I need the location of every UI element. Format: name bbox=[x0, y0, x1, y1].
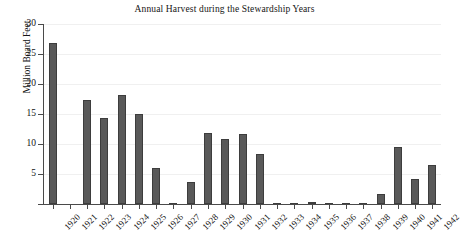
bar bbox=[411, 179, 419, 204]
x-tick-mark bbox=[225, 205, 226, 209]
bar bbox=[428, 165, 436, 204]
bar bbox=[152, 168, 160, 204]
plot-area bbox=[44, 24, 441, 204]
x-tick-mark bbox=[53, 205, 54, 209]
x-tick-label: 1924 bbox=[131, 212, 151, 232]
x-tick-label: 1939 bbox=[390, 212, 410, 232]
gridline bbox=[44, 24, 441, 25]
x-tick-label: 1931 bbox=[252, 212, 272, 232]
y-tick-mark bbox=[38, 84, 43, 85]
x-tick-mark bbox=[277, 205, 278, 209]
x-tick-label: 1920 bbox=[62, 212, 82, 232]
x-tick-label: 1933 bbox=[286, 212, 306, 232]
bar bbox=[394, 147, 402, 204]
x-tick-label: 1921 bbox=[79, 212, 99, 232]
y-tick-label: 5 bbox=[6, 169, 36, 179]
y-axis-line bbox=[43, 24, 44, 205]
bar bbox=[239, 134, 247, 204]
bar bbox=[187, 182, 195, 204]
y-tick-label: 10 bbox=[6, 139, 36, 149]
y-tick-label: 15 bbox=[6, 109, 36, 119]
bar bbox=[221, 139, 229, 204]
x-tick-label: 1935 bbox=[321, 212, 341, 232]
x-tick-mark bbox=[173, 205, 174, 209]
x-tick-label: 1925 bbox=[148, 212, 168, 232]
x-tick-mark bbox=[139, 205, 140, 209]
y-tick-mark bbox=[38, 24, 43, 25]
x-tick-label: 1927 bbox=[183, 212, 203, 232]
x-tick-mark bbox=[363, 205, 364, 209]
bar bbox=[49, 43, 57, 204]
x-tick-label: 1934 bbox=[304, 212, 324, 232]
x-tick-mark bbox=[381, 205, 382, 209]
x-tick-mark bbox=[312, 205, 313, 209]
x-tick-mark bbox=[346, 205, 347, 209]
bar bbox=[204, 133, 212, 204]
gridline bbox=[44, 114, 441, 115]
x-tick-label: 1941 bbox=[424, 212, 444, 232]
x-tick-label: 1923 bbox=[114, 212, 134, 232]
x-tick-mark bbox=[415, 205, 416, 209]
x-tick-label: 1938 bbox=[373, 212, 393, 232]
x-tick-mark bbox=[329, 205, 330, 209]
x-tick-mark bbox=[191, 205, 192, 209]
x-tick-mark bbox=[294, 205, 295, 209]
y-tick-mark bbox=[38, 114, 43, 115]
x-tick-label: 1936 bbox=[338, 212, 358, 232]
y-tick-mark bbox=[38, 54, 43, 55]
gridline bbox=[44, 54, 441, 55]
bar bbox=[83, 100, 91, 204]
bar bbox=[118, 95, 126, 204]
x-tick-mark bbox=[260, 205, 261, 209]
x-tick-label: 1937 bbox=[355, 212, 375, 232]
y-tick-mark bbox=[38, 204, 43, 205]
x-tick-label: 1926 bbox=[165, 212, 185, 232]
y-tick-label: 30 bbox=[6, 19, 36, 29]
x-tick-mark bbox=[398, 205, 399, 209]
x-tick-mark bbox=[208, 205, 209, 209]
bar bbox=[100, 118, 108, 204]
y-tick-mark bbox=[38, 144, 43, 145]
x-tick-mark bbox=[432, 205, 433, 209]
y-tick-label: 25 bbox=[6, 49, 36, 59]
x-tick-label: 1942 bbox=[442, 212, 461, 232]
bar bbox=[135, 114, 143, 204]
x-tick-label: 1932 bbox=[269, 212, 289, 232]
x-tick-mark bbox=[70, 205, 71, 209]
x-tick-label: 1930 bbox=[235, 212, 255, 232]
y-tick-label: 20 bbox=[6, 79, 36, 89]
y-tick-mark bbox=[38, 174, 43, 175]
x-tick-label: 1928 bbox=[200, 212, 220, 232]
x-tick-mark bbox=[87, 205, 88, 209]
gridline bbox=[44, 84, 441, 85]
x-tick-mark bbox=[156, 205, 157, 209]
x-tick-mark bbox=[104, 205, 105, 209]
x-tick-label: 1940 bbox=[407, 212, 427, 232]
x-tick-mark bbox=[122, 205, 123, 209]
chart-title: Annual Harvest during the Stewardship Ye… bbox=[0, 4, 449, 14]
x-tick-mark bbox=[243, 205, 244, 209]
x-tick-label: 1929 bbox=[217, 212, 237, 232]
bar bbox=[377, 194, 385, 204]
bar bbox=[256, 154, 264, 204]
x-tick-label: 1922 bbox=[96, 212, 116, 232]
